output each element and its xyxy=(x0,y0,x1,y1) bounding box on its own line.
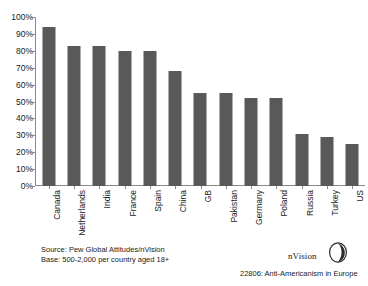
bar[interactable] xyxy=(194,93,207,186)
x-axis-tick xyxy=(99,186,100,189)
bar-slot xyxy=(289,17,314,186)
x-axis-tick xyxy=(276,186,277,189)
x-axis-label-slot: GB xyxy=(188,190,213,246)
x-axis-tick-label: US xyxy=(356,190,365,202)
bar-slot xyxy=(163,17,188,186)
bar-slot xyxy=(188,17,213,186)
nvision-logo: nVision xyxy=(288,242,360,264)
bar-slot xyxy=(340,17,365,186)
bar[interactable] xyxy=(245,98,258,186)
x-axis-tick xyxy=(352,186,353,189)
x-axis-tick-label: Spain xyxy=(154,190,163,212)
bar-slot xyxy=(238,17,263,186)
y-axis-tick xyxy=(31,17,35,18)
x-axis-tick xyxy=(201,186,202,189)
y-axis-tick-label: 40% xyxy=(0,114,33,123)
bar[interactable] xyxy=(143,51,156,186)
y-axis-tick-label: 90% xyxy=(0,29,33,38)
y-axis-tick-label: 10% xyxy=(0,165,33,174)
bar[interactable] xyxy=(67,46,80,186)
x-axis-label-slot: India xyxy=(87,190,112,246)
x-axis-tick-label: Germany xyxy=(255,190,264,225)
x-axis-tick xyxy=(251,186,252,189)
y-axis-tick xyxy=(31,186,35,187)
bar[interactable] xyxy=(169,71,182,186)
bar[interactable] xyxy=(93,46,106,186)
x-axis-label-slot: France xyxy=(112,190,137,246)
x-axis-tick-label: Canada xyxy=(53,190,62,220)
source-line-2: Base: 500-2,000 per country aged 18+ xyxy=(41,255,169,265)
bar-slot xyxy=(36,17,61,186)
y-axis-tick xyxy=(31,152,35,153)
y-axis-tick-label: 70% xyxy=(0,63,33,72)
x-axis-tick xyxy=(175,186,176,189)
y-axis-tick-label: 60% xyxy=(0,80,33,89)
x-axis-label-slot: Canada xyxy=(36,190,61,246)
source-line-1: Source: Pew Global Attitudes/nVision xyxy=(41,245,169,255)
bar-slot xyxy=(264,17,289,186)
y-axis-tick xyxy=(31,118,35,119)
x-axis-label-slot: Germany xyxy=(238,190,263,246)
y-axis-tick xyxy=(31,51,35,52)
y-axis-tick-label: 30% xyxy=(0,131,33,140)
bar-slot xyxy=(112,17,137,186)
y-axis-tick-label: 100% xyxy=(0,13,33,22)
x-axis-tick xyxy=(226,186,227,189)
y-axis-tick-label: 50% xyxy=(0,97,33,106)
x-axis-labels: CanadaNetherlandsIndiaFranceSpainChinaGB… xyxy=(36,190,365,246)
x-axis-label-slot: US xyxy=(340,190,365,246)
bar[interactable] xyxy=(219,93,232,186)
bar[interactable] xyxy=(118,51,131,186)
bar-slot xyxy=(213,17,238,186)
bar[interactable] xyxy=(321,137,334,186)
y-axis-tick xyxy=(31,34,35,35)
x-axis-tick xyxy=(125,186,126,189)
x-axis-tick xyxy=(150,186,151,189)
bar[interactable] xyxy=(270,98,283,186)
y-axis-tick-label: 20% xyxy=(0,148,33,157)
x-axis-label-slot: China xyxy=(163,190,188,246)
x-axis-label-slot: Russia xyxy=(289,190,314,246)
x-axis-label-slot: Spain xyxy=(137,190,162,246)
x-axis-tick-label: Netherlands xyxy=(78,190,87,236)
x-axis-label-slot: Netherlands xyxy=(61,190,86,246)
plot-area: 100%90%80%70%60%50%40%30%20%10%0% Canada… xyxy=(0,0,368,246)
x-axis-tick xyxy=(327,186,328,189)
y-axis-tick xyxy=(31,85,35,86)
x-axis-tick-label: India xyxy=(103,190,112,208)
x-axis-tick-label: France xyxy=(129,190,138,216)
y-axis-labels: 100%90%80%70%60%50%40%30%20%10%0% xyxy=(0,12,33,186)
y-axis-tick-label: 0% xyxy=(0,182,33,191)
y-axis-tick xyxy=(31,135,35,136)
x-axis-tick xyxy=(74,186,75,189)
bar-slot xyxy=(314,17,339,186)
bar-slot xyxy=(61,17,86,186)
y-axis-tick-label: 80% xyxy=(0,46,33,55)
x-axis-tick xyxy=(49,186,50,189)
x-axis-tick xyxy=(302,186,303,189)
y-axis-tick xyxy=(31,102,35,103)
chart-container: 100%90%80%70%60%50%40%30%20%10%0% Canada… xyxy=(0,0,368,286)
x-axis-tick-label: GB xyxy=(204,190,213,202)
x-axis-tick-label: Poland xyxy=(280,190,289,216)
bar-slot xyxy=(137,17,162,186)
y-axis-tick xyxy=(31,68,35,69)
x-axis-tick-label: China xyxy=(179,190,188,212)
nvision-oval-icon xyxy=(328,242,348,263)
source-note: Source: Pew Global Attitudes/nVision Bas… xyxy=(41,245,169,265)
bar-slot xyxy=(87,17,112,186)
bars-area xyxy=(36,17,365,186)
bar[interactable] xyxy=(42,27,55,186)
bar[interactable] xyxy=(346,144,359,186)
x-axis-tick-label: Turkey xyxy=(331,190,340,216)
x-axis-label-slot: Turkey xyxy=(314,190,339,246)
x-axis-label-slot: Poland xyxy=(264,190,289,246)
logo-wordmark: nVision xyxy=(288,251,317,261)
x-axis-tick-label: Pakistan xyxy=(230,190,239,223)
bar[interactable] xyxy=(295,134,308,186)
y-axis-tick xyxy=(31,169,35,170)
chart-caption: 22806: Anti-Americanism in Europe xyxy=(240,269,358,278)
x-axis-tick-label: Russia xyxy=(306,190,315,216)
x-axis-label-slot: Pakistan xyxy=(213,190,238,246)
